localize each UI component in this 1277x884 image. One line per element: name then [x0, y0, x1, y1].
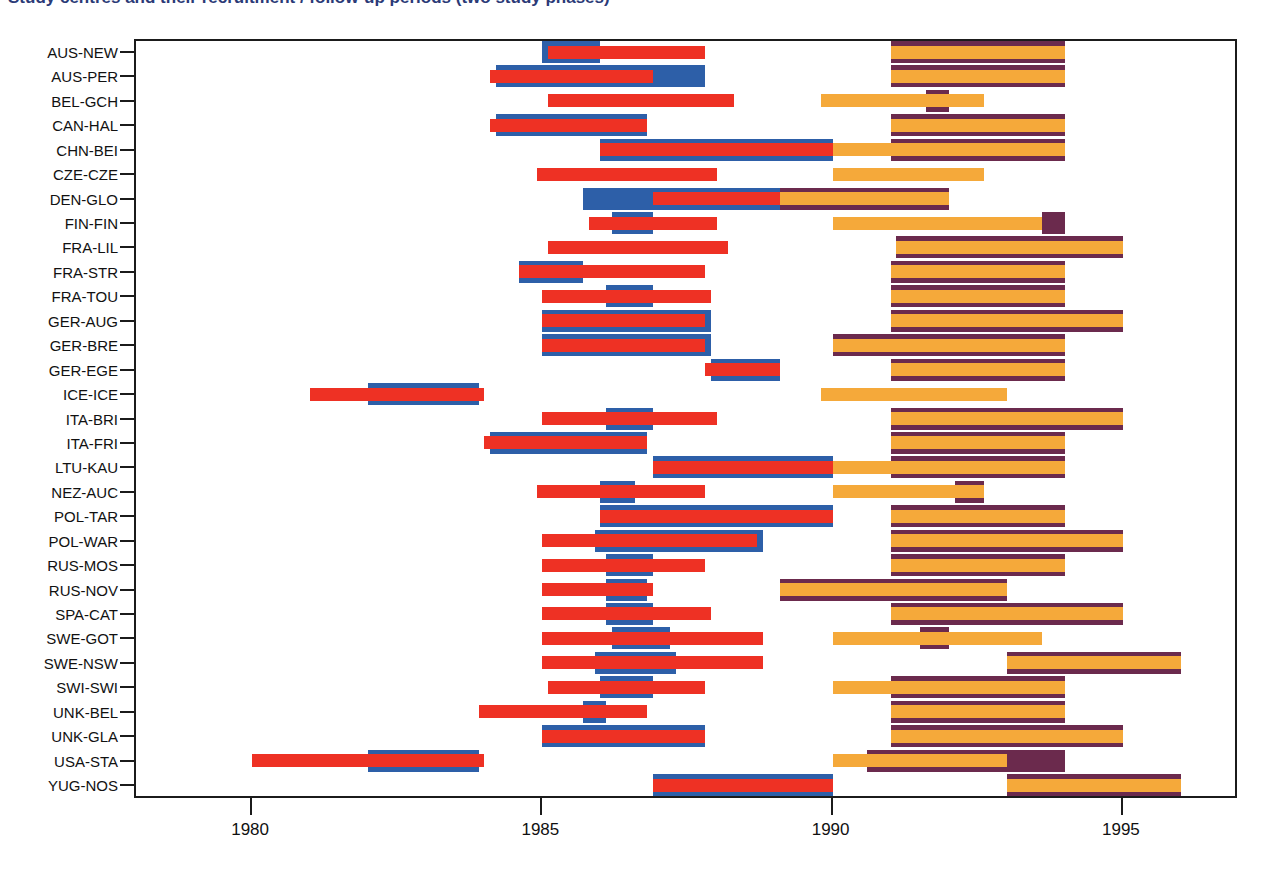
bar-fra-tou-phase1-inner [542, 290, 710, 303]
y-tick-mark [120, 246, 134, 248]
bar-ice-ice-phase1-inner [310, 388, 484, 401]
bar-fra-str-phase1-inner [519, 265, 705, 278]
x-tick-mark [250, 798, 252, 815]
y-tick-mark [120, 564, 134, 566]
y-axis-label-fra-str: FRA-STR [53, 263, 118, 280]
chart-title: Study centres and their recruitment / fo… [8, 0, 1268, 14]
y-tick-mark [120, 100, 134, 102]
bar-ger-aug-phase1-inner [542, 314, 705, 327]
bar-pol-war-phase1-inner [542, 534, 757, 547]
y-axis-label-unk-gla: UNK-GLA [51, 728, 118, 745]
bar-ger-bre-phase1-inner [542, 339, 705, 352]
y-tick-mark [120, 295, 134, 297]
bar-usa-sta-phase2-inner [833, 754, 1007, 767]
bar-bel-gch-phase2-inner [821, 94, 984, 107]
bar-fin-fin-phase2-outer [1042, 212, 1065, 234]
y-tick-mark [120, 222, 134, 224]
y-tick-mark [120, 442, 134, 444]
x-axis-label-1990: 1990 [812, 820, 850, 840]
y-tick-mark [120, 711, 134, 713]
bar-unk-gla-phase1-inner [542, 730, 705, 743]
bar-swe-got-phase2-inner [833, 632, 1042, 645]
y-tick-mark [120, 173, 134, 175]
x-axis-label-1980: 1980 [231, 820, 269, 840]
bar-ltu-kau-phase2-inner [833, 461, 1065, 474]
bar-ita-bri-phase2-inner [891, 412, 1123, 425]
y-tick-mark [120, 344, 134, 346]
bar-nez-auc-phase1-inner [537, 485, 705, 498]
bar-ita-fri-phase1-inner [484, 436, 647, 449]
bar-den-glo-phase1-inner [653, 192, 781, 205]
y-axis-label-rus-nov: RUS-NOV [49, 581, 118, 598]
y-axis-label-ger-bre: GER-BRE [50, 337, 118, 354]
bar-swe-nsw-phase1-inner [542, 656, 763, 669]
y-tick-mark [120, 613, 134, 615]
bar-ltu-kau-phase1-inner [653, 461, 833, 474]
y-axis-label-ger-aug: GER-AUG [48, 312, 118, 329]
y-tick-mark [120, 75, 134, 77]
y-axis-label-usa-sta: USA-STA [54, 752, 118, 769]
y-tick-mark [120, 466, 134, 468]
y-tick-mark [120, 271, 134, 273]
bar-swe-got-phase1-inner [542, 632, 763, 645]
y-tick-mark [120, 51, 134, 53]
x-axis-label-1985: 1985 [521, 820, 559, 840]
y-tick-mark [120, 198, 134, 200]
y-axis-label-pol-tar: POL-TAR [54, 508, 118, 525]
bar-usa-sta-phase1-inner [252, 754, 484, 767]
y-tick-mark [120, 418, 134, 420]
bar-pol-tar-phase2-inner [891, 510, 1065, 523]
y-tick-mark [120, 637, 134, 639]
x-tick-mark [1121, 798, 1123, 815]
y-axis-label-unk-bel: UNK-BEL [53, 703, 118, 720]
y-tick-mark [120, 369, 134, 371]
x-tick-mark [540, 798, 542, 815]
y-axis-label-aus-new: AUS-NEW [47, 44, 118, 61]
bar-spa-cat-phase2-inner [891, 607, 1123, 620]
y-axis-label-swe-got: SWE-GOT [46, 630, 118, 647]
bar-aus-per-phase1-inner [490, 70, 653, 83]
x-tick-mark [831, 798, 833, 815]
y-axis-label-ltu-kau: LTU-KAU [55, 459, 118, 476]
bar-ger-bre-phase2-inner [833, 339, 1065, 352]
bar-swe-nsw-phase2-inner [1007, 656, 1181, 669]
y-tick-mark [120, 491, 134, 493]
bar-yug-nos-phase2-inner [1007, 779, 1181, 792]
bar-ger-aug-phase2-inner [891, 314, 1123, 327]
y-axis-label-ice-ice: ICE-ICE [63, 386, 118, 403]
y-axis-label-chn-bei: CHN-BEI [56, 141, 118, 158]
y-axis-label-spa-cat: SPA-CAT [55, 605, 118, 622]
y-axis-label-ita-bri: ITA-BRI [66, 410, 118, 427]
y-axis-label-swe-nsw: SWE-NSW [44, 654, 118, 671]
bar-aus-new-phase1-inner [548, 46, 705, 59]
bar-ita-bri-phase1-inner [542, 412, 716, 425]
y-tick-mark [120, 589, 134, 591]
bar-ita-fri-phase2-inner [891, 436, 1065, 449]
y-axis-label-rus-mos: RUS-MOS [47, 557, 118, 574]
y-tick-mark [120, 320, 134, 322]
x-axis: 1980198519901995 [134, 798, 1237, 858]
y-axis-label-yug-nos: YUG-NOS [48, 777, 118, 794]
bar-spa-cat-phase1-inner [542, 607, 710, 620]
bar-fra-tou-phase2-inner [891, 290, 1065, 303]
bar-cze-cze-phase1-inner [537, 168, 717, 181]
y-axis-label-ita-fri: ITA-FRI [67, 434, 118, 451]
y-axis-label-ger-ege: GER-EGE [49, 361, 118, 378]
y-axis-label-cze-cze: CZE-CZE [53, 166, 118, 183]
plot-area [134, 39, 1237, 798]
x-axis-label-1995: 1995 [1102, 820, 1140, 840]
bar-pol-tar-phase1-inner [600, 510, 832, 523]
bar-aus-new-phase2-inner [891, 46, 1065, 59]
y-axis-label-fin-fin: FIN-FIN [65, 215, 118, 232]
bar-can-hal-phase1-inner [490, 119, 647, 132]
chart-page: Study centres and their recruitment / fo… [0, 0, 1277, 884]
bar-den-glo-phase2-inner [780, 192, 948, 205]
bar-rus-mos-phase2-inner [891, 559, 1065, 572]
bar-swi-swi-phase1-inner [548, 681, 705, 694]
bar-fra-lil-phase2-inner [896, 241, 1122, 254]
y-tick-mark [120, 662, 134, 664]
y-tick-mark [120, 760, 134, 762]
bar-chn-bei-phase1-inner [600, 143, 832, 156]
bar-unk-bel-phase1-inner [479, 705, 647, 718]
bar-pol-war-phase2-inner [891, 534, 1123, 547]
